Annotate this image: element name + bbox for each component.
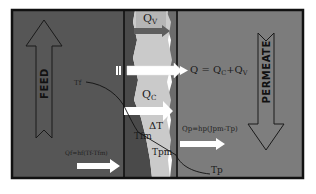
qc-label-sub: C	[151, 93, 156, 102]
qp-equation: Qp=hp(Jpm-Tp)	[182, 126, 238, 133]
qv-label-sub: V	[152, 17, 157, 26]
tpm-label: Tpm	[152, 148, 172, 157]
feed-label: FEED	[39, 66, 50, 102]
qv-label-text: Q	[143, 12, 152, 25]
qv-label: QV	[143, 13, 157, 25]
permeate-label: PERMEATE	[261, 48, 272, 104]
tfm-label: Tfm	[134, 132, 152, 141]
total-heat-arrow-ticks	[116, 66, 118, 75]
q-total-sub-v: V	[243, 69, 248, 77]
tp-label: Tp	[211, 166, 223, 175]
delta-t-label: ΔT	[149, 121, 163, 131]
qf-equation: Qf=hf(Tf-Tfm)	[65, 150, 108, 156]
q-total-mid: +Q	[226, 64, 243, 75]
q-total-label: Q = QC+QV	[190, 65, 247, 77]
permeate-region	[176, 10, 303, 178]
qc-label: QC	[142, 89, 157, 101]
q-total-text: Q = Q	[190, 64, 221, 75]
total-heat-arrow-tick-2	[119, 66, 121, 75]
tf-label: Tf	[74, 80, 81, 87]
qc-label-text: Q	[142, 88, 151, 101]
membrane-heat-transfer-diagram: FEED PERMEATE QV Q = QC+QV QC Tf ΔT Tfm …	[0, 0, 316, 194]
